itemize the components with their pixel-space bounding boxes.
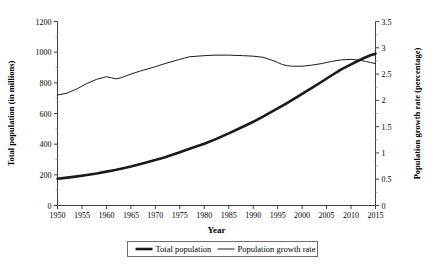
x-tick-label: 1965 [123, 211, 139, 220]
left-axis-ticks: 020040060080010001200 [36, 18, 58, 211]
chart-figure: 02004006008001000120000.511.522.533.5195… [0, 0, 433, 270]
legend-label-2: Population growth rate [238, 244, 316, 254]
right-tick-label: 0.5 [382, 175, 392, 184]
right-tick-label: 1.5 [382, 123, 392, 132]
left-tick-label: 1200 [36, 18, 52, 27]
left-tick-label: 200 [40, 171, 52, 180]
x-tick-label: 1970 [147, 211, 163, 220]
x-tick-label: 1980 [196, 211, 212, 220]
left-tick-label: 0 [48, 202, 52, 211]
right-axis-ticks: 00.511.522.533.5 [376, 18, 392, 211]
y2-axis-title: Population growth rate (percentage) [412, 48, 422, 180]
left-tick-label: 1000 [36, 48, 52, 57]
y-axis-title: Total population (in millions) [6, 60, 16, 166]
right-tick-label: 1 [382, 149, 386, 158]
dual-axis-line-chart: 02004006008001000120000.511.522.533.5195… [0, 0, 433, 270]
chart-root: 02004006008001000120000.511.522.533.5195… [6, 18, 422, 257]
series-line-2 [58, 55, 376, 95]
x-tick-label: 1955 [74, 211, 90, 220]
series-line-1 [58, 54, 376, 179]
x-tick-label: 2005 [319, 211, 335, 220]
left-tick-label: 800 [40, 79, 52, 88]
left-tick-label: 400 [40, 140, 52, 149]
right-tick-label: 2 [382, 96, 386, 105]
x-tick-label: 1960 [98, 211, 114, 220]
x-tick-label: 2015 [368, 211, 384, 220]
x-tick-label: 2000 [294, 211, 310, 220]
right-tick-label: 3 [382, 44, 386, 53]
x-axis-ticks: 1950195519601965197019751980198519901995… [50, 206, 384, 221]
x-tick-label: 1990 [245, 211, 261, 220]
right-tick-label: 2.5 [382, 70, 392, 79]
x-axis-title: Year [208, 225, 226, 235]
chart-legend: Total populationPopulation growth rate [128, 242, 318, 257]
legend-label-1: Total population [156, 244, 213, 254]
x-tick-label: 2010 [343, 211, 359, 220]
right-tick-label: 0 [382, 202, 386, 211]
x-tick-label: 1975 [172, 211, 188, 220]
right-tick-label: 3.5 [382, 18, 392, 27]
x-tick-label: 1950 [50, 211, 66, 220]
x-tick-label: 1995 [270, 211, 286, 220]
x-tick-label: 1985 [221, 211, 237, 220]
left-tick-label: 600 [40, 110, 52, 119]
